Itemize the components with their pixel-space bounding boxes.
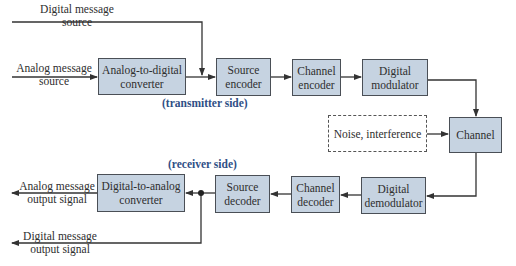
digital-message-source-label: Digital message source — [22, 3, 132, 29]
noise-interference-block: Noise, interference — [328, 115, 427, 152]
label-line: Analog message — [12, 62, 96, 75]
label-line: Digital message — [22, 3, 132, 16]
digital-modulator-block: Digitalmodulator — [362, 59, 428, 96]
label-line: output signal — [20, 243, 100, 256]
junction-dot — [198, 190, 204, 196]
digital-message-output-label: Digital message output signal — [20, 230, 100, 256]
digital-to-analog-converter-block: Digital-to-analogconverter — [97, 174, 185, 212]
label-line: Analog message — [18, 180, 96, 193]
analog-to-digital-converter-block: Analog-to-digitalconverter — [98, 58, 186, 95]
label-line: output signal — [18, 193, 96, 206]
source-encoder-block: Sourceencoder — [216, 58, 271, 96]
label-line: source — [22, 16, 132, 29]
channel-decoder-block: Channeldecoder — [291, 176, 340, 213]
connection-wires — [0, 0, 516, 266]
analog-message-output-label: Analog message output signal — [18, 180, 96, 206]
receiver-side-label: (receiver side) — [168, 158, 237, 170]
source-decoder-block: Sourcedecoder — [215, 175, 270, 213]
channel-encoder-block: Channelencoder — [292, 59, 341, 96]
label-line: source — [12, 75, 96, 88]
transmitter-side-label: (transmitter side) — [162, 97, 248, 109]
analog-message-source-label: Analog message source — [12, 62, 96, 88]
digital-demodulator-block: Digitaldemodulator — [361, 177, 426, 214]
label-line: Digital message — [20, 230, 100, 243]
communication-system-block-diagram: Digital message source Analog message so… — [0, 0, 516, 266]
channel-block: Channel — [449, 117, 502, 153]
